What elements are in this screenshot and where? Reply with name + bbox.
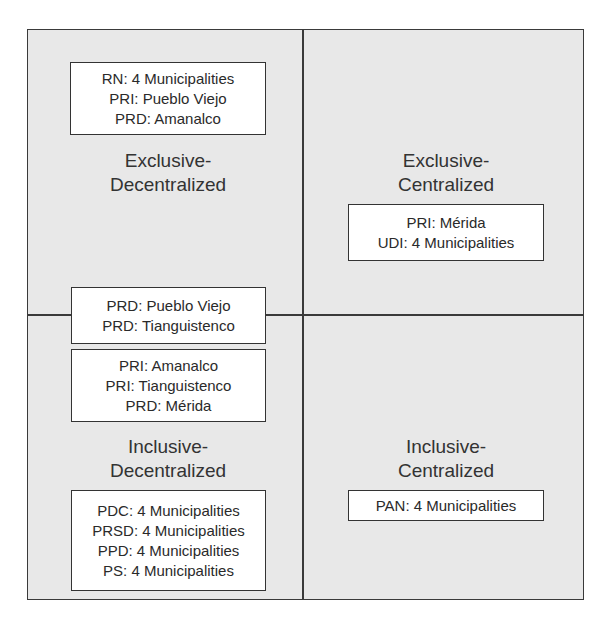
quadrant-label-exclusive-centralized: Exclusive- Centralized [326,149,566,197]
box-inclusive-decentralized-parties-1: PRI: Amanalco PRI: Tianguistenco PRD: Mé… [71,349,266,422]
box-line: UDI: 4 Municipalities [349,233,543,253]
box-line: PPD: 4 Municipalities [72,541,265,561]
quadrant-label-inclusive-decentralized: Inclusive- Decentralized [48,435,288,483]
box-line: PS: 4 Municipalities [72,561,265,581]
box-boundary-parties: PRD: Pueblo Viejo PRD: Tianguistenco [71,287,266,344]
box-line: PAN: 4 Municipalities [349,496,543,516]
box-line: PRI: Pueblo Viejo [71,89,265,109]
quadrant-label-inclusive-centralized: Inclusive- Centralized [326,435,566,483]
box-line: PRSD: 4 Municipalities [72,521,265,541]
box-line: PRD: Pueblo Viejo [72,296,265,316]
box-inclusive-decentralized-parties-2: PDC: 4 Municipalities PRSD: 4 Municipali… [71,490,266,591]
box-line: PRI: Amanalco [72,356,265,376]
box-line: PDC: 4 Municipalities [72,501,265,521]
box-line: PRI: Mérida [349,213,543,233]
quadrant-label-exclusive-decentralized: Exclusive- Decentralized [48,149,288,197]
box-line: PRI: Tianguistenco [72,376,265,396]
box-line: PRD: Amanalco [71,109,265,129]
box-exclusive-decentralized-parties: RN: 4 Municipalities PRI: Pueblo Viejo P… [70,62,266,135]
box-inclusive-centralized-parties: PAN: 4 Municipalities [348,490,544,521]
box-exclusive-centralized-parties: PRI: Mérida UDI: 4 Municipalities [348,204,544,261]
box-line: PRD: Tianguistenco [72,316,265,336]
box-line: PRD: Mérida [72,396,265,416]
box-line: RN: 4 Municipalities [71,69,265,89]
